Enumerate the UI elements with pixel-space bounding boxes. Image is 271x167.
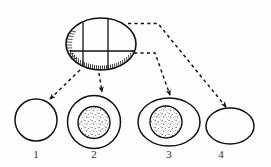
shape-4-label: 4 xyxy=(211,148,231,160)
figure-canvas xyxy=(0,0,271,167)
shape-4-flat-ellipse xyxy=(206,108,254,144)
shape-1-plain-circle xyxy=(15,99,57,141)
ellipse-outline xyxy=(66,18,136,70)
arrow-to-shape-1 xyxy=(50,70,80,99)
shape-2-label: 2 xyxy=(84,148,104,160)
shape-2-inner-core xyxy=(78,107,110,139)
shape-3-inner-core xyxy=(150,106,182,138)
arrow-to-shape-3 xyxy=(134,53,170,95)
shape-1-label: 1 xyxy=(26,148,46,160)
hatched-ellipse xyxy=(66,18,136,71)
shape-1-outline xyxy=(15,99,57,141)
shape-4-outline xyxy=(206,108,254,144)
shape-3-ellipse-with-core xyxy=(138,98,200,146)
figure-diagram: 1 2 3 4 xyxy=(0,0,271,167)
arrow-group xyxy=(50,24,226,108)
arrow-to-shape-2 xyxy=(99,73,102,92)
shape-3-label: 3 xyxy=(159,148,179,160)
bottom-hatch-ticks xyxy=(70,50,134,71)
shape-2-circle-with-core xyxy=(68,96,121,149)
arrow-to-shape-4 xyxy=(128,24,226,108)
